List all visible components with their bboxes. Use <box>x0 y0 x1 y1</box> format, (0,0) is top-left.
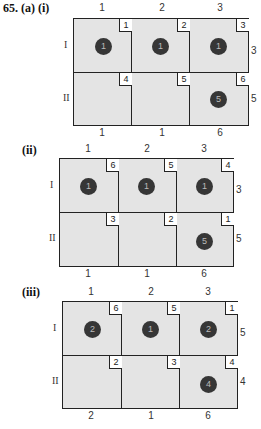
part-label: (ii) <box>22 143 37 158</box>
cost-box: 2 <box>164 213 177 226</box>
cost-box: 3 <box>106 213 119 226</box>
allocation-circle: 2 <box>84 321 101 338</box>
cell-r2c3: 6 5 <box>190 73 249 126</box>
col-header: 1 <box>92 2 112 13</box>
cell-r1c1: 6 1 <box>60 159 119 213</box>
cell-r2c1: 4 <box>74 73 132 126</box>
col-header: 3 <box>210 2 230 13</box>
demand-value: 2 <box>81 410 101 421</box>
cell-r2c2: 2 <box>119 213 177 267</box>
part-label: (iii) <box>22 285 40 300</box>
cost-box: 5 <box>177 73 190 86</box>
cost-box: 4 <box>225 356 238 369</box>
cost-box: 6 <box>109 302 122 315</box>
cost-box: 1 <box>225 302 238 315</box>
cell-r2c3: 1 5 <box>177 213 234 267</box>
demand-value: 1 <box>137 268 157 279</box>
cost-box: 3 <box>167 356 180 369</box>
cell-r1c3: 3 1 <box>190 19 249 73</box>
row-label: I <box>50 179 53 190</box>
supply-value: 5 <box>251 93 257 104</box>
col-header: 2 <box>141 286 161 297</box>
cost-box: 1 <box>221 213 234 226</box>
cell-r1c1: 6 2 <box>63 302 122 356</box>
cell-r2c1: 2 <box>63 356 122 409</box>
cell-r2c3: 4 4 <box>180 356 238 409</box>
row-label: I <box>53 322 56 333</box>
demand-value: 1 <box>141 410 161 421</box>
demand-value: 1 <box>78 268 98 279</box>
allocation-circle: 4 <box>200 376 217 393</box>
allocation-circle: 5 <box>210 91 227 108</box>
allocation-circle: 1 <box>138 178 155 195</box>
supply-value: 4 <box>240 376 246 387</box>
transport-table-2: 6 1 5 1 4 1 3 2 1 5 <box>59 158 234 267</box>
allocation-circle: 5 <box>196 233 213 250</box>
cost-box: 6 <box>106 159 119 172</box>
transport-table-1: 1 1 2 1 3 1 4 5 6 5 <box>73 18 249 126</box>
cost-box: 2 <box>109 356 122 369</box>
row-label: II <box>49 232 56 243</box>
cell-r1c3: 1 2 <box>180 302 238 356</box>
cell-r2c2: 5 <box>132 73 190 126</box>
cost-box: 5 <box>167 302 180 315</box>
col-header: 2 <box>152 2 172 13</box>
allocation-circle: 1 <box>142 321 159 338</box>
cell-r1c2: 5 1 <box>122 302 180 356</box>
cell-r1c2: 2 1 <box>132 19 190 73</box>
cell-r1c2: 5 1 <box>119 159 177 213</box>
cost-box: 6 <box>236 73 249 86</box>
demand-value: 6 <box>210 127 230 138</box>
demand-value: 1 <box>152 127 172 138</box>
demand-value: 1 <box>92 127 112 138</box>
col-header: 1 <box>81 286 101 297</box>
allocation-circle: 1 <box>196 178 213 195</box>
cell-r1c1: 1 1 <box>74 19 132 73</box>
row-label: I <box>64 39 67 50</box>
allocation-circle: 2 <box>200 321 217 338</box>
supply-value: 3 <box>251 45 257 56</box>
demand-value: 6 <box>198 410 218 421</box>
col-header: 1 <box>78 143 98 154</box>
cost-box: 5 <box>164 159 177 172</box>
col-header: 2 <box>137 143 157 154</box>
row-label: II <box>52 375 59 386</box>
cost-box: 3 <box>236 19 249 32</box>
allocation-circle: 1 <box>80 178 97 195</box>
allocation-circle: 1 <box>95 38 112 55</box>
cost-box: 4 <box>221 159 234 172</box>
cost-box: 2 <box>177 19 190 32</box>
cell-r2c2: 3 <box>122 356 180 409</box>
problem-label: 65. (a) (i) <box>3 1 49 16</box>
supply-value: 5 <box>240 327 246 338</box>
demand-value: 6 <box>194 268 214 279</box>
supply-value: 5 <box>236 233 242 244</box>
allocation-circle: 1 <box>152 38 169 55</box>
row-label: II <box>63 92 70 103</box>
col-header: 3 <box>198 286 218 297</box>
transport-table-3: 6 2 5 1 1 2 2 3 4 4 <box>62 301 238 409</box>
col-header: 3 <box>194 143 214 154</box>
supply-value: 3 <box>236 184 242 195</box>
allocation-circle: 1 <box>210 38 227 55</box>
cost-box: 4 <box>119 73 132 86</box>
cost-box: 1 <box>119 19 132 32</box>
cell-r1c3: 4 1 <box>177 159 234 213</box>
cell-r2c1: 3 <box>60 213 119 267</box>
